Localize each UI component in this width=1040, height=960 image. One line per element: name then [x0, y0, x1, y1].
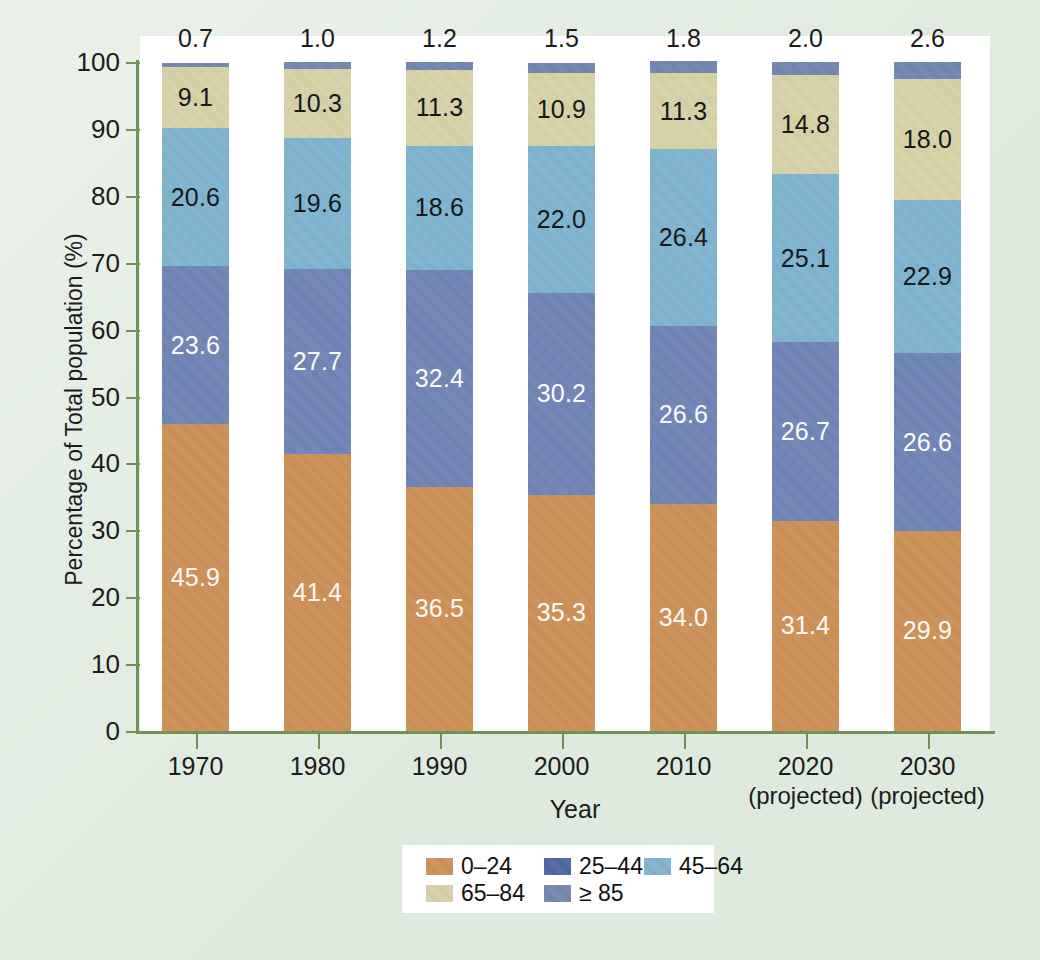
- bar-segment[interactable]: [284, 62, 351, 69]
- legend-color-swatch: [644, 858, 671, 875]
- bar-segment-value-label: 26.7: [781, 417, 830, 446]
- bar-top-value-label: 1.5: [502, 24, 622, 53]
- y-axis-tick-label: 0: [40, 716, 120, 747]
- legend-label: 65–84: [461, 880, 525, 907]
- bar-top-value-label: 0.7: [136, 24, 256, 53]
- bar-segment-value-label: 29.9: [903, 616, 952, 645]
- y-axis-tick-label: 100: [40, 47, 120, 78]
- legend-item[interactable]: ≥ 85: [544, 880, 624, 907]
- bar-segment[interactable]: 26.7: [772, 342, 839, 521]
- bar-segment-value-label: 45.9: [171, 563, 220, 592]
- bar-segment[interactable]: 11.3: [650, 73, 717, 149]
- legend-item[interactable]: 25–44: [544, 853, 643, 880]
- bar-segment-value-label: 11.3: [416, 93, 464, 122]
- legend: 0–2425–4445–6465–84≥ 85: [402, 845, 714, 913]
- bar-segment[interactable]: 22.0: [528, 146, 595, 293]
- bar-top-value-label: 1.8: [624, 24, 744, 53]
- legend-color-swatch: [544, 858, 571, 875]
- bar-segment-value-label: 10.3: [293, 89, 342, 118]
- bar-segment-value-label: 30.2: [537, 379, 586, 408]
- bar-segment[interactable]: 19.6: [284, 138, 351, 269]
- legend-item[interactable]: 0–24: [426, 853, 512, 880]
- legend-label: 25–44: [579, 853, 643, 880]
- x-axis-tick-label-note: (projected): [853, 782, 1003, 810]
- bar-segment[interactable]: 26.6: [894, 353, 961, 531]
- x-axis-tick: [196, 734, 198, 749]
- bar-top-value-label: 1.0: [258, 24, 378, 53]
- y-axis-tick: [126, 731, 140, 733]
- bar-segment[interactable]: 29.9: [894, 531, 961, 731]
- bar-segment[interactable]: 26.6: [650, 326, 717, 504]
- y-axis-tick: [126, 129, 140, 131]
- bar-segment[interactable]: 14.8: [772, 75, 839, 174]
- stacked-bar[interactable]: 35.330.222.010.9: [528, 62, 595, 731]
- bar-segment[interactable]: 10.3: [284, 69, 351, 138]
- bar-segment-value-label: 18.6: [415, 193, 464, 222]
- bar-segment[interactable]: 34.0: [650, 504, 717, 731]
- bar-segment[interactable]: 35.3: [528, 495, 595, 731]
- bar-segment-value-label: 25.1: [781, 244, 830, 273]
- bar-segment[interactable]: [162, 63, 229, 68]
- bar-segment[interactable]: 36.5: [406, 487, 473, 731]
- bar-segment[interactable]: 22.9: [894, 200, 961, 353]
- x-axis-tick: [318, 734, 320, 749]
- bar-segment[interactable]: 11.3: [406, 70, 473, 146]
- legend-color-swatch: [426, 858, 453, 875]
- bar-segment[interactable]: 26.4: [650, 149, 717, 326]
- legend-label: 0–24: [461, 853, 512, 880]
- bar-segment[interactable]: 9.1: [162, 67, 229, 128]
- y-axis-tick: [126, 196, 140, 198]
- legend-row: 0–2425–4445–64: [414, 853, 704, 880]
- bar-segment-value-label: 26.4: [659, 223, 708, 252]
- legend-label: ≥ 85: [579, 880, 624, 907]
- bar-segment[interactable]: 10.9: [528, 73, 595, 146]
- bar-segment-value-label: 32.4: [415, 364, 464, 393]
- bar-segment-value-label: 22.9: [903, 262, 952, 291]
- y-axis-tick: [126, 397, 140, 399]
- bar-segment-value-label: 35.3: [537, 598, 586, 627]
- stacked-bar[interactable]: 45.923.620.69.1: [162, 62, 229, 731]
- bar-segment-value-label: 22.0: [537, 205, 586, 234]
- bar-segment[interactable]: [650, 61, 717, 73]
- legend-label: 45–64: [679, 853, 743, 880]
- y-axis-tick: [126, 263, 140, 265]
- legend-item[interactable]: 45–64: [644, 853, 743, 880]
- stacked-bar[interactable]: 34.026.626.411.3: [650, 62, 717, 731]
- bar-segment-value-label: 9.1: [178, 83, 213, 112]
- bar-segment[interactable]: [894, 62, 961, 79]
- legend-item[interactable]: 65–84: [426, 880, 525, 907]
- bar-segment-value-label: 10.9: [537, 95, 586, 124]
- bar-segment[interactable]: 18.6: [406, 146, 473, 270]
- bar-segment[interactable]: 30.2: [528, 293, 595, 495]
- bar-segment[interactable]: [528, 63, 595, 73]
- bar-segment-value-label: 41.4: [293, 578, 342, 607]
- x-axis-tick-label-year: 2020: [778, 752, 834, 780]
- bar-segment[interactable]: 23.6: [162, 266, 229, 424]
- bar-top-value-label: 2.6: [868, 24, 988, 53]
- y-axis-title: Percentage of Total population (%): [61, 130, 88, 690]
- y-axis-tick: [126, 530, 140, 532]
- bar-segment[interactable]: 32.4: [406, 270, 473, 487]
- x-axis-tick-label: 2030(projected): [853, 752, 1003, 810]
- stacked-bar[interactable]: 31.426.725.114.8: [772, 62, 839, 731]
- bar-segment[interactable]: 31.4: [772, 521, 839, 731]
- bar-segment[interactable]: 45.9: [162, 424, 229, 731]
- bar-segment[interactable]: [406, 62, 473, 70]
- bar-segment-value-label: 26.6: [659, 400, 708, 429]
- bar-segment[interactable]: 18.0: [894, 79, 961, 199]
- y-axis-tick: [126, 664, 140, 666]
- bar-segment[interactable]: 41.4: [284, 454, 351, 731]
- bar-segment[interactable]: 20.6: [162, 128, 229, 266]
- stacked-bar[interactable]: 36.532.418.611.3: [406, 62, 473, 731]
- x-axis-tick: [928, 734, 930, 749]
- y-axis-tick: [126, 463, 140, 465]
- legend-color-swatch: [544, 885, 571, 902]
- bar-segment-value-label: 27.7: [293, 347, 342, 376]
- bar-segment[interactable]: [772, 62, 839, 75]
- stacked-bar[interactable]: 41.427.719.610.3: [284, 62, 351, 731]
- x-axis-tick-label-year: 1970: [168, 752, 224, 780]
- stacked-bar[interactable]: 29.926.622.918.0: [894, 62, 961, 731]
- bar-segment[interactable]: 27.7: [284, 269, 351, 454]
- x-axis-tick-label-year: 1980: [290, 752, 346, 780]
- bar-segment[interactable]: 25.1: [772, 174, 839, 342]
